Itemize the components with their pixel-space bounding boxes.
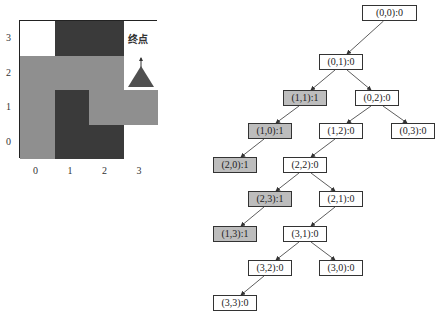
tree-node: (0,3):0 — [391, 123, 435, 139]
tree-node: (2,3):1 — [248, 191, 292, 207]
tree-node: (1,3):1 — [213, 226, 257, 242]
tree-edge — [347, 21, 384, 54]
tree-node: (1,2):0 — [319, 123, 363, 139]
tree-node: (2,0):1 — [213, 157, 257, 173]
tree-edge — [241, 276, 264, 295]
tree-edge — [311, 139, 335, 157]
tree-edge — [347, 106, 371, 123]
tree-node: (0,0):0 — [362, 5, 417, 21]
tree-edge — [311, 207, 335, 226]
tree-edge — [311, 242, 335, 260]
tree-node: (1,1):1 — [283, 90, 327, 106]
tree-node: (1,0):1 — [248, 123, 292, 139]
tree-node: (3,3):0 — [213, 295, 257, 311]
tree-node: (0,2):0 — [355, 90, 399, 106]
tree-edge — [311, 70, 335, 90]
tree-edge — [311, 173, 335, 191]
tree-edge — [383, 106, 407, 123]
tree-node: (3,0):0 — [319, 260, 363, 276]
tree-edge — [347, 70, 371, 90]
tree-edge — [241, 139, 264, 157]
tree-edge — [276, 242, 299, 260]
tree-node: (0,1):0 — [319, 54, 363, 70]
tree-node: (3,2):0 — [248, 260, 292, 276]
tree-edge — [276, 173, 299, 191]
tree-edge — [276, 106, 299, 123]
tree-node: (2,1):0 — [319, 191, 363, 207]
tree-node: (3,1):0 — [283, 226, 327, 242]
tree-edge — [241, 207, 264, 226]
tree-node: (2,2):0 — [283, 157, 327, 173]
